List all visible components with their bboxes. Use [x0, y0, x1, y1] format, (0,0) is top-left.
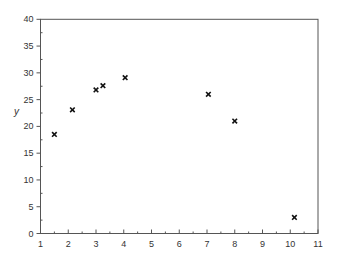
y-tick-label: 5	[28, 202, 33, 212]
x-tick-label: 5	[149, 239, 154, 249]
x-tick-label: 10	[285, 239, 295, 249]
x-tick-label: 3	[93, 239, 98, 249]
data-points	[52, 75, 297, 219]
x-marker-icon	[94, 88, 99, 93]
x-tick-label: 6	[177, 239, 182, 249]
y-tick-label: 20	[23, 121, 33, 131]
y-tick-label: 15	[23, 148, 33, 158]
plot-frame	[41, 19, 319, 233]
x-marker-icon	[206, 92, 211, 97]
x-tick-label: 1	[38, 239, 43, 249]
scatter-chart: 1234567891011 0510152025303540 y	[0, 0, 338, 262]
y-tick-label: 35	[23, 41, 33, 51]
x-marker-icon	[232, 119, 237, 124]
y-axis: 0510152025303540	[23, 14, 42, 238]
plot-border	[41, 19, 319, 233]
x-tick-label: 9	[260, 239, 265, 249]
x-marker-icon	[123, 75, 128, 80]
x-tick-label: 8	[232, 239, 237, 249]
x-marker-icon	[52, 132, 57, 137]
y-tick-label: 30	[23, 68, 33, 78]
y-tick-label: 40	[23, 14, 33, 24]
x-marker-icon	[70, 107, 75, 112]
x-marker-icon	[292, 215, 297, 220]
y-tick-label: 25	[23, 95, 33, 105]
x-marker-icon	[101, 83, 106, 88]
y-axis-label: y	[13, 106, 20, 117]
x-axis: 1234567891011	[38, 230, 323, 249]
x-tick-label: 11	[313, 239, 322, 249]
x-tick-label: 4	[121, 239, 126, 249]
y-tick-label: 0	[28, 229, 33, 239]
y-tick-label: 10	[23, 175, 33, 185]
x-tick-label: 2	[66, 239, 71, 249]
x-tick-label: 7	[204, 239, 209, 249]
